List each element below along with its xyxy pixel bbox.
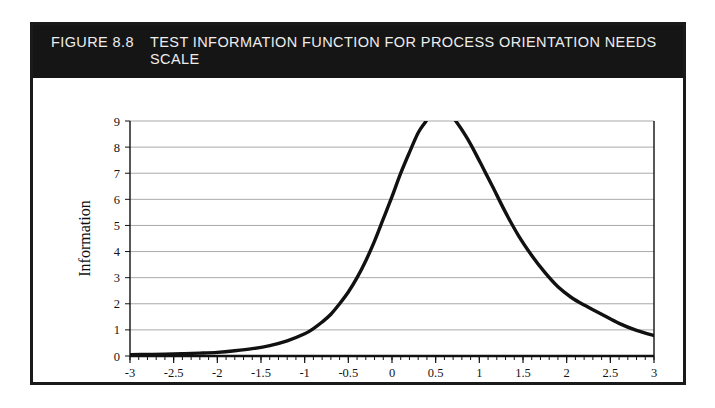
information-curve [130, 104, 654, 354]
y-axis-title: Information [76, 200, 93, 276]
svg-text:-1.5: -1.5 [251, 366, 271, 377]
svg-text:-0.5: -0.5 [338, 366, 358, 377]
svg-text:2: 2 [564, 366, 570, 377]
figure-frame: FIGURE 8.8 TEST INFORMATION FUNCTION FOR… [30, 22, 686, 385]
figure-number-label: FIGURE 8.8 [51, 34, 134, 50]
svg-text:-2: -2 [212, 366, 222, 377]
svg-text:1.5: 1.5 [515, 366, 531, 377]
svg-text:4: 4 [114, 245, 121, 259]
svg-text:-2.5: -2.5 [164, 366, 184, 377]
svg-text:-1: -1 [299, 366, 309, 377]
x-axis-tick-labels: -3-2.5-2-1.5-1-0.500.511.522.53 [125, 366, 657, 377]
svg-text:9: 9 [114, 115, 120, 129]
svg-text:0.5: 0.5 [428, 366, 444, 377]
svg-text:1: 1 [114, 323, 120, 337]
svg-text:-3: -3 [125, 366, 135, 377]
svg-text:8: 8 [114, 141, 120, 155]
figure-caption-label: TEST INFORMATION FUNCTION FOR PROCESS OR… [150, 34, 671, 68]
chart-plot-area: 0123456789 -3-2.5-2-1.5-1-0.500.511.522.… [70, 77, 670, 377]
y-axis-tick-labels: 0123456789 [114, 115, 121, 364]
svg-text:1: 1 [476, 366, 482, 377]
svg-text:2.5: 2.5 [603, 366, 619, 377]
svg-text:3: 3 [651, 366, 657, 377]
svg-text:5: 5 [114, 219, 120, 233]
svg-text:2: 2 [114, 297, 120, 311]
svg-text:3: 3 [114, 271, 120, 285]
svg-text:0: 0 [389, 366, 395, 377]
test-information-function-chart: 0123456789 -3-2.5-2-1.5-1-0.500.511.522.… [70, 77, 670, 377]
figure-title-banner: FIGURE 8.8 TEST INFORMATION FUNCTION FOR… [33, 25, 683, 78]
svg-text:0: 0 [114, 350, 120, 364]
svg-text:6: 6 [114, 193, 120, 207]
y-axis-tick-marks [125, 121, 130, 356]
svg-text:7: 7 [114, 167, 120, 181]
